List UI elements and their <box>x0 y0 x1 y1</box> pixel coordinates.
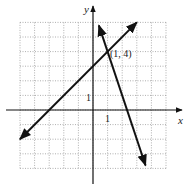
y-axis-label: y <box>83 3 89 15</box>
coordinate-plane: x y 1 1 (1, 4) <box>0 0 192 187</box>
intersection-label: (1, 4) <box>110 48 132 60</box>
x-tick-label: 1 <box>105 113 110 124</box>
x-axis-label: x <box>177 114 183 126</box>
y-tick-label: 1 <box>86 92 91 103</box>
